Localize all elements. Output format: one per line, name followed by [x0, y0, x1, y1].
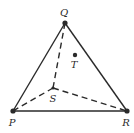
point-T — [73, 53, 77, 57]
triangle-diagram: Q P R S T — [0, 0, 134, 133]
point-S — [51, 86, 54, 89]
point-R — [124, 108, 129, 113]
label-P: P — [8, 117, 16, 128]
label-S: S — [50, 93, 57, 104]
point-Q — [62, 20, 67, 25]
diagram-canvas: Q P R S T — [0, 0, 134, 133]
edge-SR-dashed — [53, 88, 127, 111]
label-T: T — [71, 59, 79, 70]
point-P — [10, 108, 15, 113]
label-Q: Q — [60, 7, 68, 18]
label-R: R — [121, 117, 130, 128]
